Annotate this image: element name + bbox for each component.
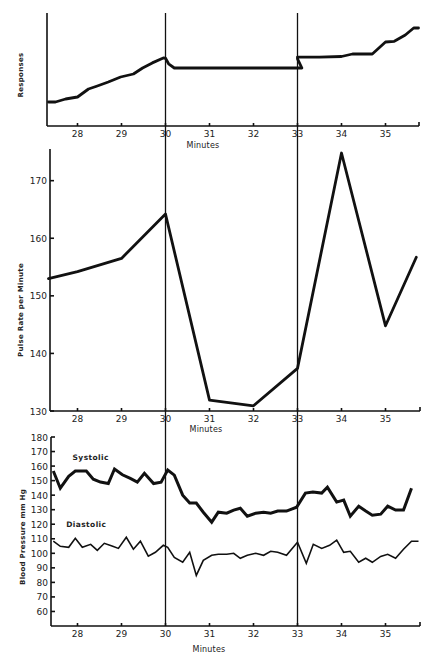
blood-pressure-y-tick-label: 100 (31, 549, 48, 559)
responses-x-tick-label: 34 (336, 129, 348, 139)
blood-pressure-y-tick-label: 170 (31, 447, 48, 457)
pulse-x-axis-title: Minutes (190, 425, 223, 434)
blood-pressure-x-tick-label: 34 (336, 629, 348, 639)
systolic-label: Systolic (73, 453, 109, 462)
blood-pressure-panel: Blood Pressure mm Hg Minutes 28293031323… (19, 433, 420, 655)
blood-pressure-x-tick-label: 32 (248, 629, 259, 639)
pulse-x-tick-label: 28 (72, 414, 84, 424)
pulse-y-tick-label: 140 (30, 349, 47, 359)
pulse-x-tick-label: 35 (380, 414, 391, 424)
pulse-x-tick-label: 29 (116, 414, 128, 424)
blood-pressure-x-tick-label: 30 (160, 629, 172, 639)
blood-pressure-y-tick-label: 120 (31, 520, 48, 530)
blood-pressure-y-tick-label: 150 (31, 476, 48, 486)
blood-pressure-y-tick-label: 110 (31, 534, 48, 544)
pulse-pulse-rate-line (49, 153, 417, 406)
pulse-y-tick-label: 130 (30, 407, 47, 417)
pulse-x-tick-label: 31 (204, 414, 215, 424)
physiology-figure: Responses Minutes 2829303132333435 Pulse… (0, 0, 434, 659)
pulse-y-axis-title: Pulse Rate per Minute (17, 263, 25, 357)
blood-pressure-diastolic-line (53, 537, 418, 575)
pulse-y-tick-label: 150 (30, 291, 47, 301)
pulse-y-tick-label: 170 (30, 176, 47, 186)
blood-pressure-y-tick-label: 80 (37, 578, 49, 588)
blood-pressure-y-tick-label: 160 (31, 462, 48, 472)
responses-x-tick-label: 29 (116, 129, 128, 139)
blood-pressure-y-tick-label: 140 (31, 491, 48, 501)
blood-pressure-systolic-line (53, 469, 411, 522)
responses-panel: Responses Minutes 2829303132333435 (17, 13, 419, 150)
responses-x-axis-title: Minutes (187, 141, 220, 150)
diastolic-label: Diastolic (66, 520, 106, 529)
blood-pressure-y-axis-title: Blood Pressure mm Hg (19, 489, 27, 585)
blood-pressure-x-tick-label: 31 (204, 629, 215, 639)
blood-pressure-x-tick-label: 29 (116, 629, 128, 639)
blood-pressure-x-axis-title: Minutes (193, 645, 226, 654)
pulse-x-tick-label: 34 (336, 414, 348, 424)
pulse-panel: Pulse Rate per Minute Minutes 2829303132… (17, 126, 420, 437)
responses-cumulative-responses-line (49, 28, 419, 102)
responses-x-tick-label: 31 (204, 129, 215, 139)
blood-pressure-y-tick-label: 180 (31, 433, 48, 443)
responses-x-tick-label: 35 (380, 129, 391, 139)
blood-pressure-x-tick-label: 28 (72, 629, 84, 639)
pulse-y-tick-label: 160 (30, 234, 47, 244)
pulse-x-tick-label: 32 (248, 414, 259, 424)
blood-pressure-y-tick-label: 70 (37, 592, 49, 602)
blood-pressure-y-tick-label: 130 (31, 505, 48, 515)
responses-x-tick-label: 28 (72, 129, 84, 139)
responses-x-tick-label: 32 (248, 129, 259, 139)
responses-y-axis-title: Responses (17, 53, 25, 98)
blood-pressure-y-tick-label: 90 (37, 563, 49, 573)
blood-pressure-x-tick-label: 33 (292, 629, 303, 639)
blood-pressure-x-tick-label: 35 (380, 629, 391, 639)
blood-pressure-y-tick-label: 60 (37, 607, 49, 617)
